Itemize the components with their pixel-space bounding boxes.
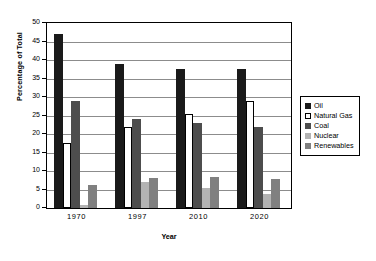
- legend-item-coal: Coal: [305, 121, 354, 131]
- bar-nuclear-1997: [141, 182, 150, 208]
- x-axis-tick-label-1970: 1970: [47, 212, 107, 221]
- legend-label: Coal: [314, 121, 329, 131]
- legend-label: Renewables: [314, 141, 354, 151]
- legend-item-oil: Oil: [305, 101, 354, 111]
- y-axis-title: Percentage of Total: [15, 12, 24, 122]
- bar-oil-2010: [176, 69, 185, 208]
- plot-area: [46, 22, 292, 209]
- bar-renewables-2010: [210, 177, 219, 208]
- bar-natural-gas-2010: [185, 114, 194, 208]
- y-axis-tick-label: 5: [14, 185, 40, 192]
- bar-oil-1997: [115, 64, 124, 208]
- bar-renewables-2020: [271, 179, 280, 208]
- bar-oil-1970: [54, 34, 63, 208]
- x-axis-tick-label-1997: 1997: [108, 212, 168, 221]
- bar-coal-2020: [254, 127, 263, 208]
- bar-nuclear-2010: [202, 188, 211, 208]
- legend-swatch-icon-oil: [305, 103, 311, 109]
- legend-item-renewables: Renewables: [305, 141, 354, 151]
- bar-coal-2010: [193, 123, 202, 208]
- y-axis-tick-label: 45: [14, 37, 40, 44]
- y-axis-tick-label: 25: [14, 111, 40, 118]
- legend-swatch-icon-natural-gas: [305, 113, 311, 119]
- y-axis-tick-label: 35: [14, 74, 40, 81]
- legend-swatch-icon-renewables: [305, 143, 311, 149]
- y-axis-tick-label: 40: [14, 55, 40, 62]
- gridline: [47, 79, 291, 80]
- bar-coal-1970: [71, 101, 80, 208]
- y-axis-tick-label: 15: [14, 148, 40, 155]
- legend-label: Oil: [314, 101, 323, 111]
- y-axis-tick-label: 0: [14, 203, 40, 210]
- bar-oil-2020: [237, 69, 246, 208]
- legend-swatch-icon-nuclear: [305, 133, 311, 139]
- x-axis-tick-label-2020: 2020: [230, 212, 290, 221]
- gridline: [47, 116, 291, 117]
- legend-label: Nuclear: [314, 131, 339, 141]
- gridline: [47, 42, 291, 43]
- bar-renewables-1997: [149, 178, 158, 208]
- legend-item-natural-gas: Natural Gas: [305, 111, 354, 121]
- bar-nuclear-2020: [263, 194, 272, 208]
- bar-natural-gas-1997: [124, 127, 133, 208]
- legend-label: Natural Gas: [314, 111, 352, 121]
- x-axis-tick-label-2010: 2010: [169, 212, 229, 221]
- legend-item-nuclear: Nuclear: [305, 131, 354, 141]
- y-axis-tick-label: 50: [14, 18, 40, 25]
- y-axis-tick-label: 10: [14, 166, 40, 173]
- bar-renewables-1970: [88, 185, 97, 208]
- energy-mix-bar-chart: Percentage of Total 05101520253035404550…: [0, 0, 376, 261]
- bar-natural-gas-1970: [63, 143, 72, 208]
- y-axis-tick-label: 30: [14, 92, 40, 99]
- gridline: [47, 60, 291, 61]
- bar-nuclear-1970: [80, 205, 89, 208]
- bar-coal-1997: [132, 119, 141, 208]
- legend-swatch-icon-coal: [305, 123, 311, 129]
- bar-natural-gas-2020: [246, 101, 255, 208]
- gridline: [47, 97, 291, 98]
- chart-legend: OilNatural GasCoalNuclearRenewables: [300, 96, 360, 156]
- x-axis-title: Year: [46, 232, 292, 241]
- y-axis-tick-label: 20: [14, 129, 40, 136]
